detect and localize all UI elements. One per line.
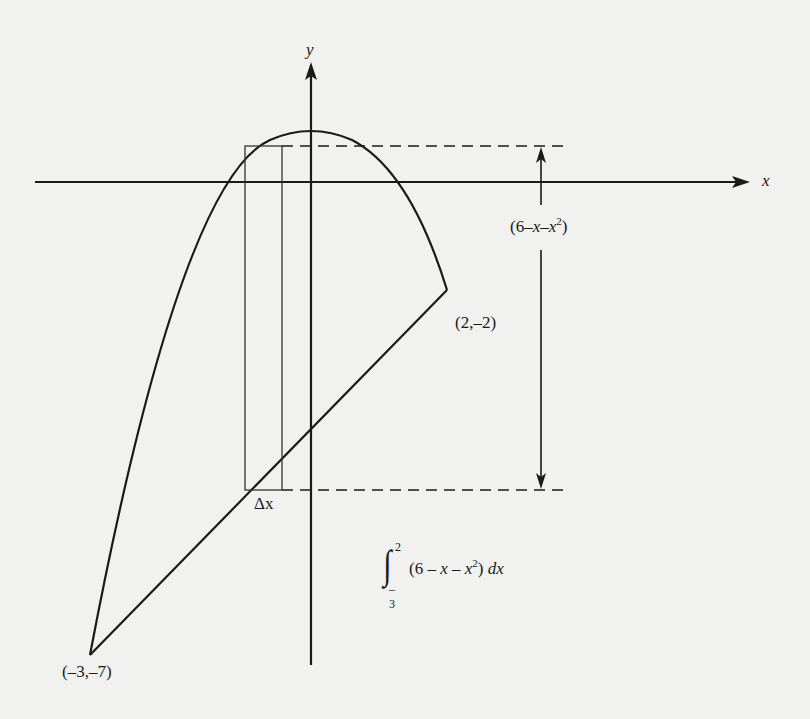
strip-height-label: (6–x–x2) <box>510 215 567 237</box>
integral-lower-limit: –3 <box>389 582 395 612</box>
integrand: (6 – x – x2) dx <box>409 557 504 579</box>
point-label-2-neg2: (2,–2) <box>455 313 496 333</box>
point-label-neg3-neg7: (–3,–7) <box>62 662 112 682</box>
x-axis-label: x <box>762 171 770 191</box>
y-axis-label: y <box>306 40 314 60</box>
parabola-curve <box>90 131 447 655</box>
integral-upper-limit: 2 <box>395 540 401 555</box>
strip-rectangle <box>245 146 282 490</box>
integral-sign: ∫ <box>383 545 391 585</box>
diagram-canvas <box>0 0 810 719</box>
delta-x-label: Δx <box>254 494 273 514</box>
